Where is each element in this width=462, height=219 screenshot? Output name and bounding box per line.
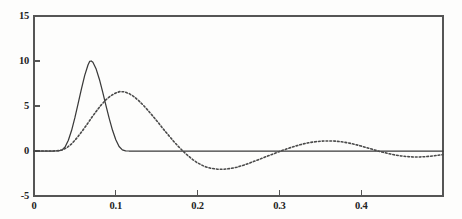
x-tick-label: 0.1 (96, 201, 136, 212)
x-tick-label: 0 (14, 201, 54, 212)
y-tick-label: 0 (24, 146, 29, 157)
y-tick-label: -5 (21, 191, 29, 202)
x-tick-label: 0.4 (341, 201, 381, 212)
x-tick-label: 0.3 (259, 201, 299, 212)
y-tick-label: 15 (19, 11, 29, 22)
x-tick-label: 0.2 (178, 201, 218, 212)
data-series (34, 61, 443, 169)
plot-canvas (0, 0, 462, 219)
axes-frame (34, 16, 443, 196)
y-tick-label: 5 (24, 101, 29, 112)
axis-ticks (34, 16, 361, 196)
y-tick-label: 10 (19, 56, 29, 67)
chart-figure: -5051015 00.10.20.30.4 (0, 0, 462, 219)
